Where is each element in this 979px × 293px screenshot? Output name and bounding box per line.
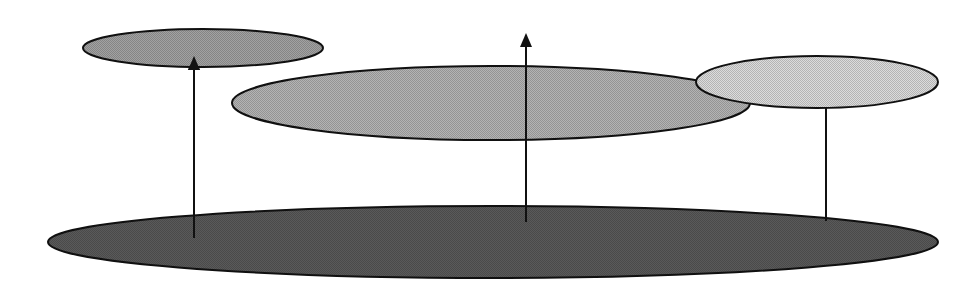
top-left-ellipse-texture	[83, 29, 323, 67]
middle-ellipse	[232, 66, 750, 140]
arrow-center-head-icon	[520, 33, 532, 47]
arrow-left-overlay	[188, 56, 200, 238]
base-ellipse-texture	[48, 206, 938, 278]
ellipse-layer-diagram	[0, 0, 979, 293]
middle-ellipse-texture	[232, 66, 750, 140]
right-ellipse-texture	[696, 56, 938, 108]
right-ellipse	[696, 56, 938, 108]
top-left-ellipse	[83, 29, 323, 67]
base-ellipse	[48, 206, 938, 278]
